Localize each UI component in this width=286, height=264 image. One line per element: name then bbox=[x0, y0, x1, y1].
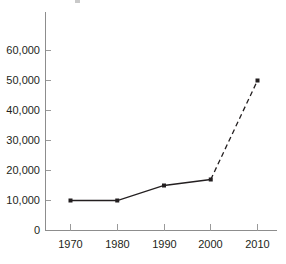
data-point-2010 bbox=[256, 79, 260, 83]
y-tick-label-30000: 30,000 bbox=[6, 134, 40, 146]
data-point-2000 bbox=[209, 178, 213, 182]
data-point-1980 bbox=[115, 199, 119, 203]
x-tick-label-1970: 1970 bbox=[58, 238, 82, 250]
y-tick-label-20000: 20,000 bbox=[6, 164, 40, 176]
y-tick-label-40000: 40,000 bbox=[6, 104, 40, 116]
data-point-1990 bbox=[162, 184, 166, 188]
line-chart: 0 10,000 20,000 30,000 40,000 50,000 60,… bbox=[0, 0, 286, 264]
top-edge-artifact bbox=[75, 0, 80, 3]
chart-background bbox=[0, 0, 286, 264]
x-tick-label-1980: 1980 bbox=[105, 238, 129, 250]
y-tick-label-10000: 10,000 bbox=[6, 194, 40, 206]
chart-canvas: 0 10,000 20,000 30,000 40,000 50,000 60,… bbox=[0, 0, 286, 264]
x-tick-label-2000: 2000 bbox=[198, 238, 222, 250]
y-tick-label-60000: 60,000 bbox=[6, 44, 40, 56]
x-tick-label-2010: 2010 bbox=[245, 238, 269, 250]
x-tick-label-1990: 1990 bbox=[152, 238, 176, 250]
y-tick-label-0: 0 bbox=[34, 224, 40, 236]
y-tick-label-50000: 50,000 bbox=[6, 74, 40, 86]
data-point-1970 bbox=[69, 199, 73, 203]
